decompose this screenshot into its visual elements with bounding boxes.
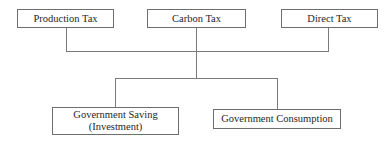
node-label-line2: (Investment) <box>89 121 143 133</box>
node-carbon-tax: Carbon Tax <box>147 9 246 28</box>
connector-top-horizontal <box>66 51 329 52</box>
node-label-line1: Government Saving <box>73 109 157 121</box>
node-label: Government Consumption <box>221 113 333 125</box>
node-label: Production Tax <box>33 13 97 25</box>
node-production-tax: Production Tax <box>17 9 114 28</box>
node-direct-tax: Direct Tax <box>281 9 378 28</box>
connector-direct-down <box>328 28 329 51</box>
node-government-consumption: Government Consumption <box>213 109 341 129</box>
node-government-saving: Government Saving (Investment) <box>52 107 179 135</box>
connector-bottom-horizontal <box>115 78 278 79</box>
connector-saving-down <box>115 78 116 107</box>
node-label: Direct Tax <box>307 13 351 25</box>
connector-production-down <box>66 28 67 51</box>
connector-consumption-down <box>277 78 278 109</box>
node-label: Carbon Tax <box>172 13 221 25</box>
connector-carbon-trunk <box>196 28 197 79</box>
